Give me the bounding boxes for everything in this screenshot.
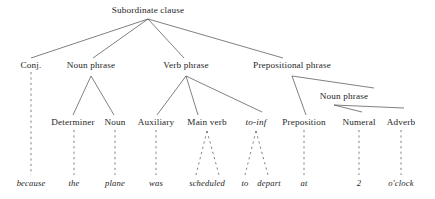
tree-node-toinf: to-inf [246,118,267,127]
tree-leaf-w-because: because [17,179,46,188]
tree-node-numeral: Numeral [342,118,375,127]
tree-edge-root-to-vp [148,19,184,58]
tree-edge-np1-to-noun [91,76,114,115]
tree-edge-root-to-conj [31,19,148,58]
tree-node-np2: Noun phrase [320,92,368,101]
tree-edge-vp-to-toinf [186,76,262,112]
tree-edge-vp-to-auxiliary [157,76,186,115]
tree-leaf-w-depart: depart [257,179,280,188]
tree-leaf-w-2: 2 [357,179,361,188]
tree-node-determiner: Determiner [51,118,94,127]
tree-node-conj: Conj. [21,61,42,70]
tree-leaf-w-scheduled: scheduled [189,179,225,188]
tree-leaf-w-to: to [242,179,249,188]
syntax-tree-diagram: Subordinate clauseConj.Noun phraseVerb p… [0,0,435,199]
tree-node-mainverb: Main verb [187,118,226,127]
tree-node-np1: Noun phrase [67,61,115,70]
tree-leaf-w-oclock: o'clock [388,179,413,188]
tree-edge-root-to-np1 [93,19,148,58]
tree-dashed-edge-mainverb-to-w-scheduled-left [196,131,207,175]
tree-dashed-edge-mainverb-to-w-scheduled-right [207,131,219,175]
tree-edge-vp-to-mainverb [186,76,198,115]
tree-node-preposition: Preposition [282,118,326,127]
tree-edge-np1-to-determiner [73,76,91,115]
tree-leaf-w-at: at [301,179,308,188]
tree-dashed-edge-toinf-to-w-to [245,131,256,175]
tree-node-adverb: Adverb [387,118,415,127]
tree-node-root: Subordinate clause [112,6,184,15]
tree-node-pp: Prepositional phrase [253,61,331,70]
tree-edge-pp-to-preposition [292,76,306,115]
tree-dashed-edge-toinf-to-w-depart [256,131,268,175]
tree-edges-layer [0,0,435,199]
tree-leaf-w-was: was [149,179,163,188]
tree-leaf-w-the: the [69,179,80,188]
tree-leaf-w-plane: plane [105,179,125,188]
tree-edge-root-to-pp [148,19,283,58]
tree-node-auxiliary: Auxiliary [138,118,175,127]
tree-node-vp: Verb phrase [163,61,208,70]
tree-node-noun: Noun [104,118,125,127]
tree-edge-pp-to-np2 [292,76,374,88]
